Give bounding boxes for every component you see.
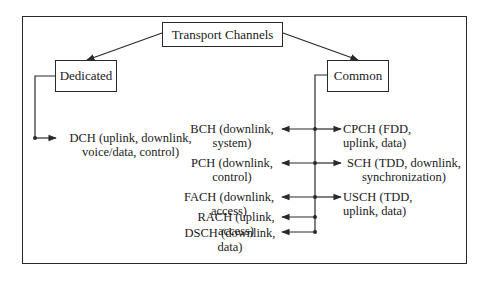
channel-line2: uplink, data): [343, 204, 412, 218]
channel-line1: RACH (uplink,: [190, 210, 282, 224]
channel-line1: PCH (downlink,: [182, 156, 282, 170]
channel-line1: SCH (TDD, downlink,: [343, 156, 465, 170]
channel-label-usch: USCH (TDD, uplink, data): [343, 190, 412, 218]
channel-line1: CPCH (FDD,: [343, 122, 411, 136]
channel-label-dsch: DSCH (downlink, data): [178, 226, 282, 254]
channel-label-pch: PCH (downlink, control): [182, 156, 282, 184]
channel-line1: BCH (downlink,: [182, 122, 282, 136]
channel-line2: control): [182, 170, 282, 184]
channel-label-sch: SCH (TDD, downlink, synchronization): [343, 156, 465, 184]
channel-line2: data): [178, 240, 282, 254]
channel-line2: synchronization): [343, 170, 465, 184]
channel-line2: uplink, data): [343, 136, 411, 150]
root-node-transport-channels: Transport Channels: [162, 22, 283, 47]
channel-line1: FACH (downlink,: [176, 190, 282, 204]
transport-channels-diagram: Transport Channels Dedicated Common DCH …: [0, 0, 487, 282]
channel-line2: system): [182, 136, 282, 150]
channel-line1: USCH (TDD,: [343, 190, 412, 204]
category-node-common: Common: [327, 60, 389, 92]
channel-line1: DSCH (downlink,: [178, 226, 282, 240]
channel-label-bch: BCH (downlink, system): [182, 122, 282, 150]
category-node-dedicated: Dedicated: [55, 60, 117, 92]
channel-label-cpch: CPCH (FDD, uplink, data): [343, 122, 411, 150]
